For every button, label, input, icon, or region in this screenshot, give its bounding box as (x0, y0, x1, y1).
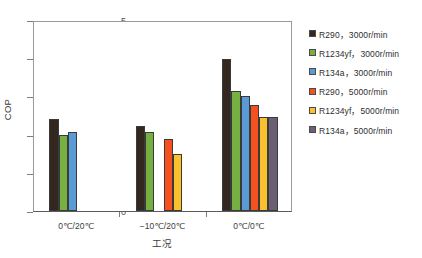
plot-area (33, 21, 292, 212)
x-tick-label: 0℃/20℃ (58, 221, 94, 231)
bar (241, 96, 250, 211)
legend-item[interactable]: R290，3000r/min (309, 24, 421, 43)
bar (68, 132, 77, 211)
legend-item[interactable]: R134a，3000r/min (309, 62, 421, 81)
legend-item[interactable]: R1234yf，5000r/min (309, 101, 421, 120)
legend: R290，3000r/minR1234yf，3000r/minR134a，300… (309, 24, 421, 139)
legend-item[interactable]: R1234yf，3000r/min (309, 43, 421, 62)
legend-swatch-icon (309, 126, 316, 133)
x-axis-title: 工况 (152, 236, 173, 250)
bar (259, 117, 268, 211)
x-tick-mark (206, 212, 207, 217)
bar (59, 135, 68, 211)
cop-bar-chart: COP 012345 0℃/20℃−10℃/20℃0℃/0℃ 工况 R290，3… (0, 0, 422, 258)
bar (173, 154, 182, 211)
bar (268, 117, 277, 211)
bar (49, 119, 58, 211)
x-tick-label: −10℃/20℃ (140, 221, 185, 231)
bar (250, 105, 259, 211)
legend-item-label: R1234yf，3000r/min (319, 47, 399, 59)
bar (164, 139, 173, 211)
legend-item-label: R134a，5000r/min (319, 124, 392, 136)
legend-swatch-icon (309, 30, 316, 37)
legend-item-label: R134a，3000r/min (319, 66, 392, 78)
x-tick-mark (119, 212, 120, 217)
y-axis-title: COP (2, 99, 13, 121)
x-tick-label: 0℃/0℃ (233, 221, 264, 231)
legend-swatch-icon (309, 107, 316, 114)
legend-swatch-icon (309, 49, 316, 56)
legend-item-label: R290，3000r/min (319, 28, 388, 40)
legend-item[interactable]: R134a，5000r/min (309, 120, 421, 139)
bar (136, 126, 145, 211)
legend-item-label: R1234yf，5000r/min (319, 104, 399, 116)
legend-swatch-icon (309, 68, 316, 75)
bar (222, 59, 231, 211)
legend-item[interactable]: R290，5000r/min (309, 82, 421, 101)
legend-swatch-icon (309, 88, 316, 95)
bar (145, 132, 154, 211)
legend-item-label: R290，5000r/min (319, 85, 388, 97)
bar (231, 91, 240, 211)
y-tick-mark (27, 212, 33, 213)
